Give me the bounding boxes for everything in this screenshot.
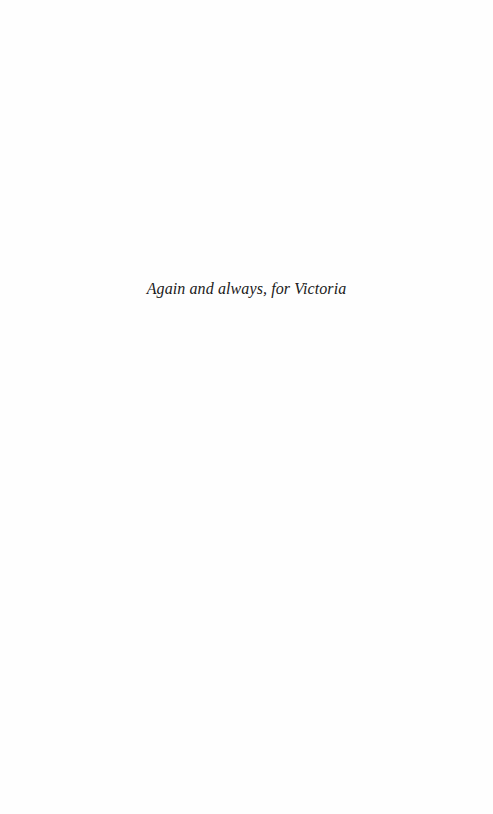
dedication-text: Again and always, for Victoria [0, 280, 493, 298]
book-page: Again and always, for Victoria [0, 0, 493, 814]
